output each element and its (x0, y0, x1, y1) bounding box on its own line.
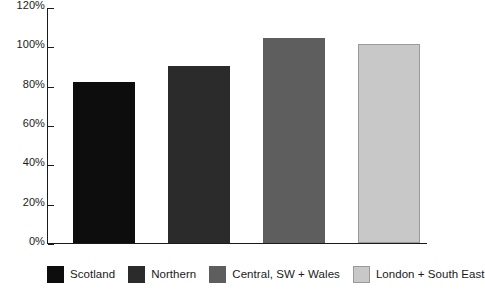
bars-group (48, 8, 427, 243)
y-axis-tick-label: 80% (23, 79, 45, 90)
x-axis-line (47, 243, 427, 244)
y-axis-tick-label: 20% (23, 197, 45, 208)
y-axis-tick-label: 100% (16, 39, 45, 50)
legend-item-label: Northern (151, 268, 196, 280)
legend-item[interactable]: Central, SW + Wales (209, 266, 340, 283)
legend-item[interactable]: London + South East (353, 266, 485, 283)
chart-legend: ScotlandNorthernCentral, SW + WalesLondo… (47, 262, 427, 286)
legend-item-label: Central, SW + Wales (232, 268, 340, 280)
legend-item[interactable]: Scotland (47, 266, 115, 283)
plot-area: 0%20%40%60%80%100%120% (47, 8, 427, 244)
y-axis-tick-label: 60% (23, 118, 45, 129)
y-axis-tick-label: 120% (16, 0, 45, 11)
legend-item-label: Scotland (70, 268, 115, 280)
bar (358, 44, 420, 243)
y-axis-tick-label: 0% (29, 236, 45, 247)
legend-swatch-icon (47, 266, 64, 283)
legend-swatch-icon (353, 266, 370, 283)
bar (73, 82, 135, 243)
legend-item[interactable]: Northern (128, 266, 196, 283)
legend-swatch-icon (128, 266, 145, 283)
bar (263, 38, 325, 243)
legend-item-label: London + South East (376, 268, 485, 280)
y-axis-tick-label: 40% (23, 157, 45, 168)
bar (168, 66, 230, 243)
y-axis-tick-mark (48, 244, 54, 245)
legend-swatch-icon (209, 266, 226, 283)
